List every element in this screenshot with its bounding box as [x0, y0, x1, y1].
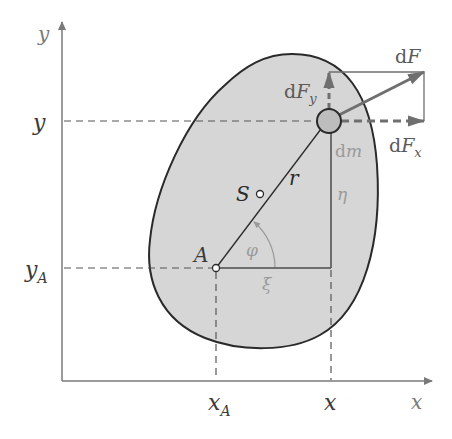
xA-tick-label: xA [208, 390, 231, 419]
point-S [257, 191, 264, 198]
y-tick-label: y [32, 110, 46, 135]
radius-label-r: r [289, 166, 300, 190]
x-tick-label: x [324, 390, 337, 415]
point-A-label: A [192, 243, 208, 267]
mass-element-diagram: y x y yA xA x A S r φ ξ η dm dF dFy dFx [0, 0, 452, 439]
dF-label: dF [395, 45, 421, 67]
dm-label: dm [335, 141, 362, 161]
y-axis-label: y [37, 22, 50, 46]
eta-label: η [337, 184, 348, 204]
x-axis-label-text: x [411, 390, 422, 414]
dFx-label: dFx [389, 134, 422, 160]
phi-label: φ [246, 240, 258, 260]
point-A [213, 265, 220, 272]
xi-label: ξ [262, 274, 273, 294]
point-S-label: S [236, 182, 250, 206]
yA-tick-label: yA [24, 257, 48, 286]
mass-element-dm [317, 109, 341, 133]
